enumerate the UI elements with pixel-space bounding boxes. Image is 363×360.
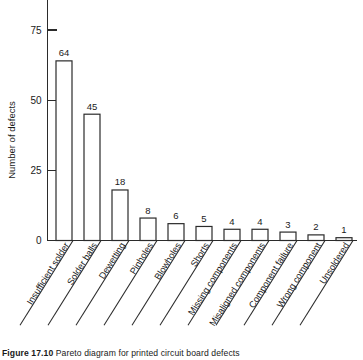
- y-axis-ticks: [48, 30, 57, 170]
- bar-value-label: 6: [173, 210, 178, 221]
- bar-value-label: 2: [313, 221, 318, 232]
- bar: [168, 224, 184, 241]
- bar: [252, 229, 268, 240]
- bar: [112, 190, 128, 241]
- category-label: Pinholes: [128, 240, 155, 276]
- y-axis-tick-labels: 0255075: [30, 25, 42, 247]
- category-label: Blowholes: [153, 240, 184, 281]
- bar: [280, 232, 296, 240]
- category-label: Missing components: [186, 240, 239, 317]
- bar-value-label: 5: [201, 213, 206, 224]
- figure-caption: Figure 17.10 Pareto diagram for printed …: [2, 348, 360, 359]
- category-label: Insufficient solder: [25, 241, 71, 307]
- y-axis-tick-label: 75: [30, 25, 42, 36]
- category-axis-labels: Insufficient solderSolder ballsDewetting…: [25, 240, 351, 328]
- bar: [308, 235, 324, 241]
- bar: [336, 238, 352, 241]
- bar: [224, 229, 240, 240]
- bar: [140, 218, 156, 240]
- bar-value-label: 4: [229, 216, 234, 227]
- bar-value-labels: 64451886544321: [59, 47, 347, 235]
- category-label: Shorts: [189, 240, 212, 268]
- figure-pareto-diagram: 0255075 64451886544321 Insufficient sold…: [0, 0, 363, 360]
- bar-value-label: 64: [59, 47, 70, 58]
- bar: [84, 114, 100, 240]
- y-axis-tick-label: 0: [36, 235, 42, 246]
- category-label: Dewetting: [97, 241, 127, 281]
- pareto-chart: 0255075 64451886544321 Insufficient sold…: [0, 0, 363, 348]
- figure-caption-text: Pareto diagram for printed circuit board…: [56, 348, 240, 358]
- bar-value-label: 45: [87, 101, 98, 112]
- figure-caption-number: Figure 17.10: [2, 348, 53, 358]
- bar: [196, 226, 212, 240]
- bar-value-label: 3: [285, 219, 290, 230]
- y-axis-title: Number of defects: [6, 101, 17, 179]
- bar-value-label: 1: [341, 224, 346, 235]
- y-axis-tick-label: 50: [30, 95, 42, 106]
- bar-value-label: 4: [257, 216, 262, 227]
- bar-value-label: 8: [145, 205, 150, 216]
- y-axis-tick-label: 25: [30, 165, 42, 176]
- category-label: Solder balls: [65, 240, 99, 286]
- bar-value-label: 18: [115, 176, 126, 187]
- bar: [56, 61, 72, 241]
- category-label: Unsoldered: [318, 241, 351, 286]
